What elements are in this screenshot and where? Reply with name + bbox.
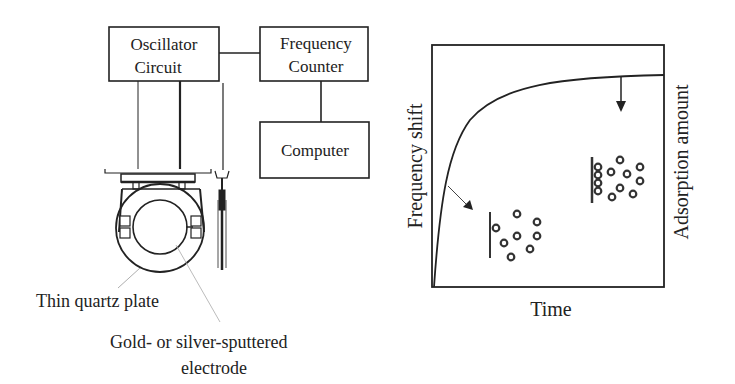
frequency-counter-box: Frequency Counter [260,27,368,81]
y-axis-left-label: Frequency shift [404,103,427,228]
oscillator-circuit-box: Oscillator Circuit [109,27,219,81]
counter-label-1: Frequency [280,34,352,53]
oscillator-label-2: Circuit [134,58,181,77]
data-curve [434,75,664,287]
electrode-label-2: electrode [181,358,247,378]
side-view-probe [215,171,229,270]
x-axis-label: Time [530,298,572,320]
leader-line [118,268,140,288]
arrow-head-icon [616,101,626,112]
computer-label: Computer [281,141,349,160]
electrode-label-1: Gold- or silver-sputtered [110,332,288,352]
computer-box: Computer [260,122,369,178]
quartz-crystal-holder [105,169,211,272]
arrow-head-icon [463,200,473,210]
early-adsorption-icon [490,211,540,261]
oscillator-label-1: Oscillator [130,35,197,54]
qcm-figure: Oscillator Circuit Frequency Counter Com… [0,0,735,384]
leader-line [176,245,220,322]
saturated-adsorption-icon [592,157,643,203]
adsorption-chart: Time Frequency shift Adsorption amount [404,45,693,320]
chart-frame [432,45,664,287]
y-axis-right-label: Adsorption amount [670,84,693,239]
quartz-plate-label: Thin quartz plate [36,291,159,311]
counter-label-2: Counter [289,57,344,76]
electrode [133,200,187,254]
